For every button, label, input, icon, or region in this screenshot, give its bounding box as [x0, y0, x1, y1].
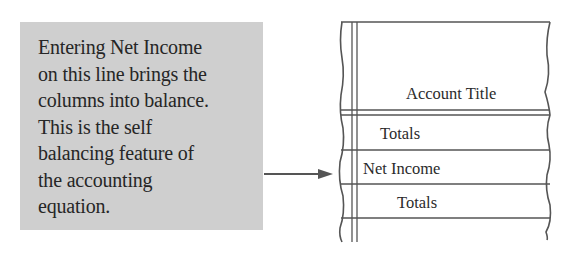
ledger-right-torn-edge	[545, 22, 551, 240]
ledger-header-account-title: Account Title	[406, 84, 496, 104]
ledger-left-torn-edge	[339, 22, 343, 242]
ledger-drawing	[0, 0, 582, 259]
ledger-row-totals-2: Totals	[397, 193, 437, 213]
ledger-row-totals-1: Totals	[380, 124, 420, 144]
arrow-icon	[264, 169, 333, 179]
ledger-row-net-income: Net Income	[363, 159, 440, 179]
